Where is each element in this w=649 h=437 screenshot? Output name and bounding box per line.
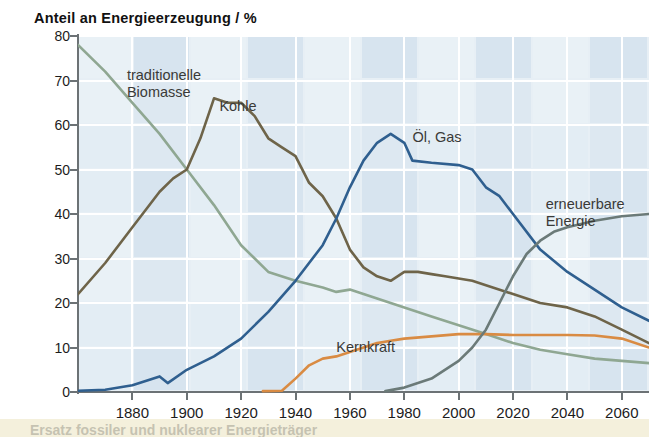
- grid-line-horizontal: [78, 258, 649, 260]
- x-axis-tick: [186, 392, 188, 400]
- caption-text: Ersatz fossiler und nuklearer Energieträ…: [30, 422, 317, 437]
- series-label: Öl, Gas: [412, 129, 461, 146]
- y-axis-tick: [70, 35, 78, 37]
- grid-line-horizontal: [78, 169, 649, 171]
- y-axis-tick: [70, 169, 78, 171]
- x-axis-tick: [566, 392, 568, 400]
- y-axis-tick: [70, 302, 78, 304]
- y-axis-tick-label: 50: [44, 163, 70, 177]
- x-axis-tick: [295, 392, 297, 400]
- y-axis-tick: [70, 347, 78, 349]
- series-label: erneuerbareEnergie: [546, 196, 625, 230]
- series-label: Kohle: [219, 98, 256, 115]
- y-axis-tick-label: 70: [44, 74, 70, 88]
- y-axis-tick-label: 10: [44, 341, 70, 355]
- grid-line-vertical: [295, 36, 297, 392]
- x-axis-tick: [403, 392, 405, 400]
- caption-strip: Ersatz fossiler und nuklearer Energieträ…: [0, 419, 649, 437]
- x-axis-tick: [240, 392, 242, 400]
- y-axis-tick: [70, 391, 78, 393]
- x-axis-tick: [131, 392, 133, 400]
- y-axis-tick-label: 30: [44, 252, 70, 266]
- x-axis-line: [77, 391, 649, 393]
- y-axis-labels: 01020304050607080: [34, 0, 70, 437]
- grid-line-horizontal: [78, 302, 649, 304]
- y-axis-tick: [70, 213, 78, 215]
- x-axis-tick: [349, 392, 351, 400]
- chart-title: Anteil an Energieerzeugung / %: [34, 10, 257, 26]
- y-axis-tick-label: 60: [44, 118, 70, 132]
- y-axis-tick: [70, 80, 78, 82]
- grid-line-horizontal: [78, 124, 649, 126]
- grid-line-vertical: [512, 36, 514, 392]
- y-axis-tick-label: 40: [44, 207, 70, 221]
- y-axis-tick-label: 20: [44, 296, 70, 310]
- series-label: traditionelleBiomasse: [127, 67, 201, 101]
- x-axis-tick: [621, 392, 623, 400]
- y-axis-tick: [70, 258, 78, 260]
- grid-line-vertical: [458, 36, 460, 392]
- y-axis-tick-label: 80: [44, 29, 70, 43]
- grid-line-horizontal: [78, 36, 649, 37]
- x-axis-tick: [512, 392, 514, 400]
- chart-screenshot: 01020304050607080 1880190019201940196019…: [0, 0, 649, 437]
- y-axis-tick-label: 0: [44, 385, 70, 399]
- series-label: Kernkraft: [336, 339, 395, 356]
- grid-line-vertical: [403, 36, 405, 392]
- grid-line-vertical: [240, 36, 242, 392]
- y-axis-tick: [70, 124, 78, 126]
- x-axis-tick: [458, 392, 460, 400]
